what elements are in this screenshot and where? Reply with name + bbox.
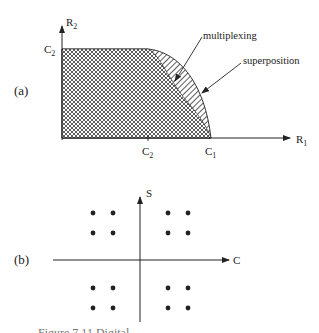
s-axis-label: S — [146, 187, 152, 199]
panel-b: (b) S C — [14, 187, 240, 322]
panel-a: (a) R2 R1 C2 C2 C1 multiplexing superpos… — [14, 16, 307, 160]
c2-y-tick-label: C2 — [44, 43, 55, 58]
constellation-point — [186, 231, 191, 236]
panel-b-label: (b) — [14, 252, 29, 267]
constellation-point — [186, 211, 191, 216]
constellation-point — [186, 286, 191, 291]
constellation-point — [111, 231, 116, 236]
constellation-point — [111, 306, 116, 311]
figure-caption: Figure 7.11 Digital ... — [0, 326, 319, 333]
c2-x-tick-label: C2 — [142, 145, 153, 160]
constellation-point — [91, 211, 96, 216]
r2-axis-label: R2 — [66, 16, 77, 31]
constellation-point — [166, 211, 171, 216]
constellation-point — [91, 286, 96, 291]
c-axis-label: C — [233, 254, 240, 266]
constellation-point — [111, 286, 116, 291]
constellation-point — [166, 286, 171, 291]
constellation-point — [186, 306, 191, 311]
constellation-point — [111, 211, 116, 216]
superposition-leader — [202, 63, 241, 93]
capacity-region-figure: (a) R2 R1 C2 C2 C1 multiplexing superpos… — [0, 0, 319, 333]
panel-a-label: (a) — [14, 83, 28, 98]
constellation-point — [91, 306, 96, 311]
c1-x-tick-label: C1 — [205, 145, 216, 160]
superposition-label: superposition — [243, 55, 300, 66]
r1-axis-label: R1 — [296, 133, 307, 148]
constellation-point — [91, 231, 96, 236]
constellation-point — [166, 231, 171, 236]
multiplexing-label: multiplexing — [203, 30, 257, 41]
constellation-point — [166, 306, 171, 311]
